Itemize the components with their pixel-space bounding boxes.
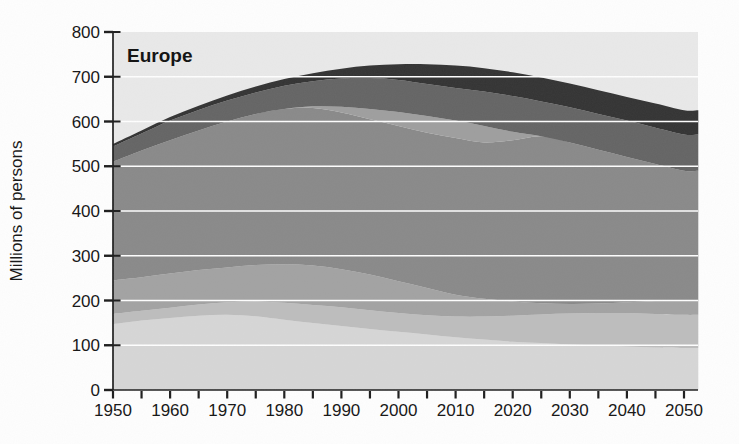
population-figure: 0100200300400500600700800195019601970198…: [0, 0, 739, 444]
scan-grain-overlay: [0, 0, 739, 444]
population-area-chart: 0100200300400500600700800195019601970198…: [0, 0, 739, 444]
